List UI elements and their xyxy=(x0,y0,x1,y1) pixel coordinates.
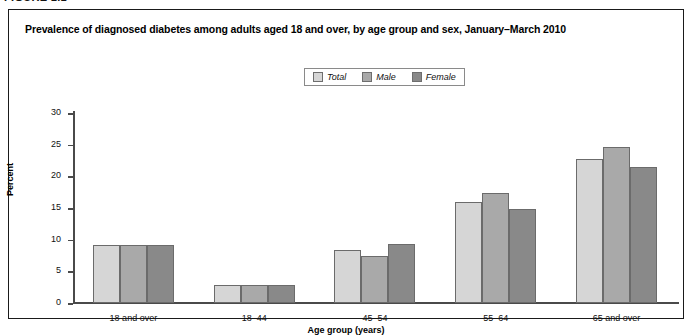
y-axis-tick-mark xyxy=(68,176,73,178)
legend-label: Male xyxy=(376,72,396,82)
bar-female[interactable] xyxy=(509,209,536,303)
bar-male[interactable] xyxy=(241,285,268,303)
legend-swatch-male-icon xyxy=(362,72,372,82)
y-axis-tick-mark xyxy=(68,271,73,273)
x-axis-tick-label: 65 and over xyxy=(547,313,687,323)
bar-male[interactable] xyxy=(482,193,509,303)
chart-legend: TotalMaleFemale xyxy=(304,68,465,86)
bar-group: 45–54 xyxy=(315,113,436,303)
y-axis-tick-label: 25 xyxy=(51,139,61,149)
bar-total[interactable] xyxy=(334,250,361,303)
y-axis-tick-label: 0 xyxy=(56,297,61,307)
x-axis-tick-label: 18–44 xyxy=(184,313,324,323)
bar-group: 55–64 xyxy=(435,113,556,303)
bar-group: 18–44 xyxy=(194,113,315,303)
bar-male[interactable] xyxy=(120,245,147,303)
figure-label: FIGURE 1.1 xyxy=(4,0,67,3)
bar-group: 18 and over xyxy=(73,113,194,303)
y-axis-tick-mark xyxy=(68,113,73,115)
bar-group: 65 and over xyxy=(556,113,677,303)
figure-container: Prevalence of diagnosed diabetes among a… xyxy=(8,9,684,319)
legend-item-female[interactable]: Female xyxy=(412,72,456,82)
plot-area: 18 and over18–4445–5455–6465 and over xyxy=(73,113,677,303)
legend-label: Female xyxy=(426,72,456,82)
bar-total[interactable] xyxy=(214,285,241,303)
legend-swatch-total-icon xyxy=(313,72,323,82)
y-axis-tick-label: 15 xyxy=(51,202,61,212)
bar-female[interactable] xyxy=(268,285,295,303)
y-axis-title: Percent xyxy=(5,163,15,196)
y-axis-tick-label: 10 xyxy=(51,234,61,244)
bar-male[interactable] xyxy=(361,256,388,303)
y-axis-tick-label: 30 xyxy=(51,107,61,117)
y-axis-tick-mark xyxy=(68,240,73,242)
chart-title: Prevalence of diagnosed diabetes among a… xyxy=(25,23,566,35)
bar-total[interactable] xyxy=(455,202,482,303)
legend-item-male[interactable]: Male xyxy=(362,72,396,82)
x-axis-tick-label: 18 and over xyxy=(63,313,203,323)
bar-female[interactable] xyxy=(388,244,415,303)
bar-total[interactable] xyxy=(93,245,120,303)
bar-male[interactable] xyxy=(603,147,630,303)
x-axis-tick-label: 55–64 xyxy=(426,313,566,323)
legend-item-total[interactable]: Total xyxy=(313,72,346,82)
bar-female[interactable] xyxy=(147,245,174,303)
y-axis-tick-label: 5 xyxy=(56,265,61,275)
x-axis-tick-label: 45–54 xyxy=(305,313,445,323)
bar-total[interactable] xyxy=(576,159,603,303)
y-axis-tick-mark xyxy=(68,208,73,210)
y-axis-tick-mark xyxy=(68,145,73,147)
y-axis-tick-mark xyxy=(68,303,73,305)
bar-female[interactable] xyxy=(630,167,657,303)
legend-label: Total xyxy=(327,72,346,82)
legend-swatch-female-icon xyxy=(412,72,422,82)
y-axis-tick-label: 20 xyxy=(51,170,61,180)
x-axis-title: Age group (years) xyxy=(9,325,683,335)
